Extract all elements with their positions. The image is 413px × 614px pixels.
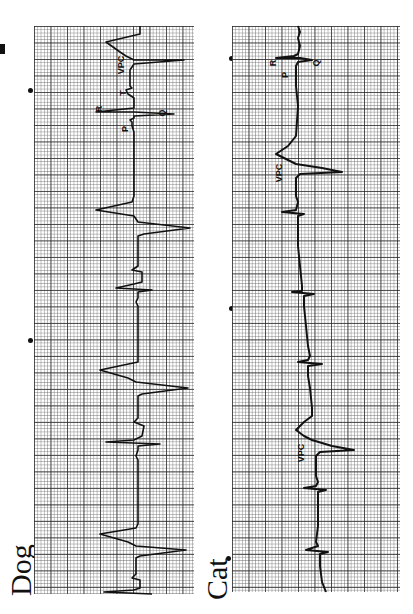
timing-dot xyxy=(226,556,231,561)
cat-p-annotation: P xyxy=(280,72,290,78)
dog-t-annotation: T xyxy=(118,90,128,96)
timing-dot xyxy=(28,338,33,343)
dog-label: Dog xyxy=(4,544,38,596)
cat-r-annotation: R xyxy=(268,60,278,67)
figure-marker xyxy=(0,44,5,54)
dog-r-annotation: R xyxy=(94,106,104,113)
dog-q-annotation: Q xyxy=(157,109,167,116)
cat-vpc-annotation-2: VPC xyxy=(296,444,306,463)
dog-ecg-strip xyxy=(34,26,194,594)
dog-vpc-annotation: VPC xyxy=(116,56,126,75)
cat-q-annotation: Q xyxy=(311,59,321,66)
dog-ecg-trace xyxy=(34,26,194,594)
timing-dot xyxy=(28,88,33,93)
cat-ecg-trace xyxy=(232,26,400,592)
cat-vpc-annotation-1: VPC xyxy=(274,164,284,183)
cat-ecg-strip xyxy=(232,26,400,592)
dog-p-annotation: P xyxy=(120,126,130,132)
cat-label: Cat xyxy=(200,558,234,600)
